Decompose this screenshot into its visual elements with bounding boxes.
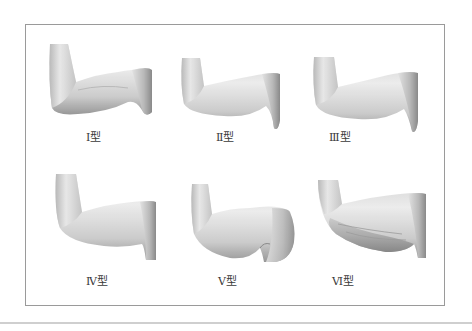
arm-type-2-illustration <box>180 56 282 132</box>
type-6-label: Ⅵ型 <box>332 272 354 288</box>
type-2-label: Ⅱ型 <box>216 128 234 144</box>
type-4-label: Ⅳ型 <box>86 272 108 288</box>
arm-type-4-illustration <box>54 172 158 262</box>
arm-type-1-illustration <box>48 42 156 118</box>
bottom-divider <box>0 322 472 324</box>
arm-type-6-illustration <box>316 178 428 262</box>
arm-type-5-illustration <box>190 182 296 264</box>
type-5-label: Ⅴ型 <box>218 272 237 288</box>
arm-type-3-illustration <box>312 55 420 135</box>
type-3-label: Ⅲ型 <box>329 128 351 144</box>
type-1-label: Ⅰ型 <box>86 128 101 144</box>
